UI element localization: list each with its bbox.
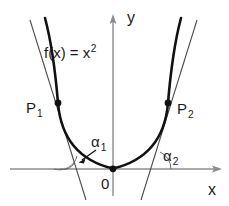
point-label-p2-text: P xyxy=(177,100,187,117)
origin-label: 0 xyxy=(101,176,109,191)
function-label: f(x) = x2 xyxy=(44,44,96,60)
point-label-p1: P1 xyxy=(26,100,43,119)
point-marker-p2 xyxy=(165,100,172,107)
point-label-p2-subscript: 2 xyxy=(187,109,194,120)
angle-label-alpha1-subscript: 1 xyxy=(100,142,107,153)
point-label-p1-subscript: 1 xyxy=(36,108,43,119)
angle-arc-alpha1 xyxy=(54,156,77,170)
function-label-exponent: 2 xyxy=(90,43,96,54)
angle-label-alpha1-text: α xyxy=(91,133,100,150)
x-axis-label: x xyxy=(208,182,216,198)
parabola-tangent-diagram: f(x) = x2 y x 0 P1 P2 α1 α2 xyxy=(0,0,229,206)
point-marker-origin xyxy=(110,165,117,172)
point-label-p1-text: P xyxy=(26,99,36,116)
angle-label-alpha1: α1 xyxy=(91,134,106,153)
point-marker-p1 xyxy=(55,100,62,107)
function-label-text: f(x) = x xyxy=(44,44,90,61)
angle-label-alpha2-subscript: 2 xyxy=(172,156,179,167)
y-axis-label: y xyxy=(127,10,135,26)
angle-label-alpha2-text: α xyxy=(163,147,172,164)
angle-label-alpha2: α2 xyxy=(163,148,178,167)
point-label-p2: P2 xyxy=(177,101,194,120)
